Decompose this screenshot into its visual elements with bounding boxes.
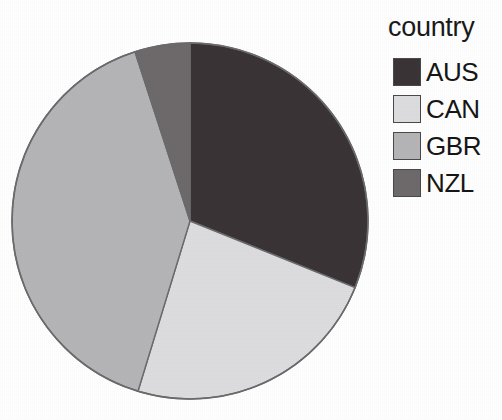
legend-label-aus: AUS bbox=[426, 58, 478, 86]
legend-swatch-aus bbox=[393, 58, 421, 86]
legend-swatch-gbr bbox=[393, 132, 421, 160]
legend-label-gbr: GBR bbox=[426, 132, 481, 160]
legend-label-can: CAN bbox=[426, 95, 480, 123]
legend-swatch-nzl bbox=[393, 169, 421, 197]
pie-chart-figure: country AUS CAN GBR NZL bbox=[0, 0, 502, 420]
legend: country AUS CAN GBR NZL bbox=[386, 12, 502, 203]
legend-item-can[interactable]: CAN bbox=[386, 92, 502, 125]
pie-slice-group bbox=[12, 43, 368, 399]
legend-swatch-can bbox=[393, 95, 421, 123]
legend-label-nzl: NZL bbox=[426, 169, 474, 197]
legend-item-gbr[interactable]: GBR bbox=[386, 129, 502, 162]
legend-title: country bbox=[388, 12, 502, 42]
legend-item-nzl[interactable]: NZL bbox=[386, 166, 502, 199]
pie-plot-area bbox=[0, 0, 382, 420]
pie-svg bbox=[0, 0, 382, 420]
legend-item-aus[interactable]: AUS bbox=[386, 55, 502, 88]
